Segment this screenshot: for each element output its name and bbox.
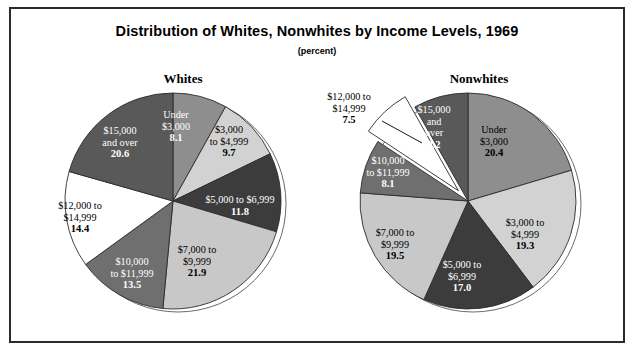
pie-chart-whites: Under$3,0008.1$3,000to $4,9999.7$5,000 t… bbox=[58, 93, 286, 312]
slice-label: $12,000 to$14,9997.5 bbox=[327, 91, 371, 125]
pie-charts-canvas: Under$3,0008.1$3,000to $4,9999.7$5,000 t… bbox=[0, 0, 636, 354]
pie-chart-nonwhites: Under$3,00020.4$3,000 to$4,99919.3$5,000… bbox=[327, 91, 581, 312]
